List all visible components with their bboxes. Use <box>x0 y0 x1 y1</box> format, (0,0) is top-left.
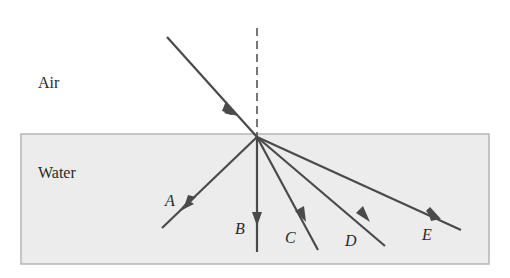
ray-d-label: D <box>344 232 357 249</box>
incident-ray <box>167 37 257 137</box>
ray-b-label: B <box>235 220 245 237</box>
air-label: Air <box>38 74 60 91</box>
ray-a-label: A <box>164 192 175 209</box>
water-label: Water <box>38 164 76 181</box>
refraction-diagram: Air Water A B C D E <box>0 0 510 278</box>
ray-e-label: E <box>421 226 432 243</box>
ray-c-label: C <box>285 229 296 246</box>
water-region <box>21 134 489 264</box>
